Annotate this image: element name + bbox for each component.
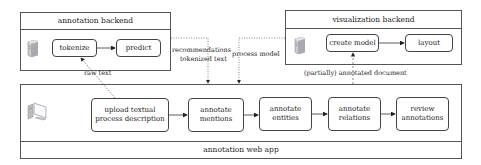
connectors [0,0,481,165]
